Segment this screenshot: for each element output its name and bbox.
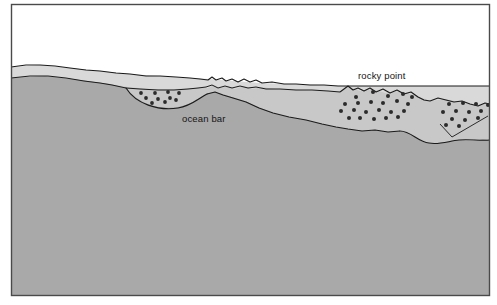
coastal-cross-section-figure: ocean bar rocky point	[0, 0, 497, 305]
rocky-point-label: rocky point	[358, 70, 406, 81]
ocean-bar-label: ocean bar	[182, 113, 226, 124]
cross-section-illustration: ocean bar rocky point	[0, 0, 497, 305]
